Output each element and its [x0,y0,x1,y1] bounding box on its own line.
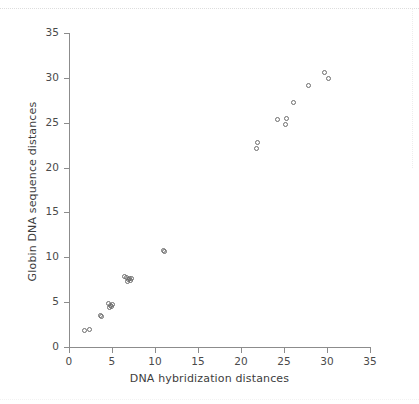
x-axis-tick-label: 30 [314,355,340,367]
data-point [129,276,134,281]
data-point [275,117,280,122]
x-axis-tick [198,348,199,353]
x-axis-tick-label: 0 [56,355,82,367]
x-axis-tick-label: 5 [99,355,125,367]
scan-page-edge-bottom [0,399,419,404]
x-axis-tick [284,348,285,353]
x-axis-tick-label: 10 [142,355,168,367]
scan-page-edge-top [0,0,419,9]
x-axis-tick [112,348,113,353]
y-axis-title: Globin DNA sequence distances [26,82,39,302]
scatter-plot-figure: 05101520253035 05101520253035 DNA hybrid… [0,0,419,404]
x-axis-tick [241,348,242,353]
data-point [306,83,311,88]
x-axis-tick-label: 15 [185,355,211,367]
data-point [283,122,288,127]
x-axis-tick [69,348,70,353]
data-point [284,116,289,121]
x-axis-tick [155,348,156,353]
plot-data-area [69,33,370,347]
data-point [87,327,92,332]
x-axis-tick [370,348,371,353]
y-axis-tick-label: 0 [33,340,59,352]
x-axis-line [69,347,371,348]
data-point [99,314,104,319]
data-point [162,249,167,254]
x-axis-title: DNA hybridization distances [0,372,419,385]
data-point [255,140,260,145]
data-point [291,100,296,105]
x-axis-tick [327,348,328,353]
data-point [322,70,327,75]
scan-page-edge-right [412,8,419,168]
data-point [110,302,115,307]
x-axis-tick-label: 35 [357,355,383,367]
x-axis-tick-label: 25 [271,355,297,367]
x-axis-tick-label: 20 [228,355,254,367]
data-point [254,146,259,151]
data-point [326,76,331,81]
y-axis-tick-label: 35 [33,26,59,38]
